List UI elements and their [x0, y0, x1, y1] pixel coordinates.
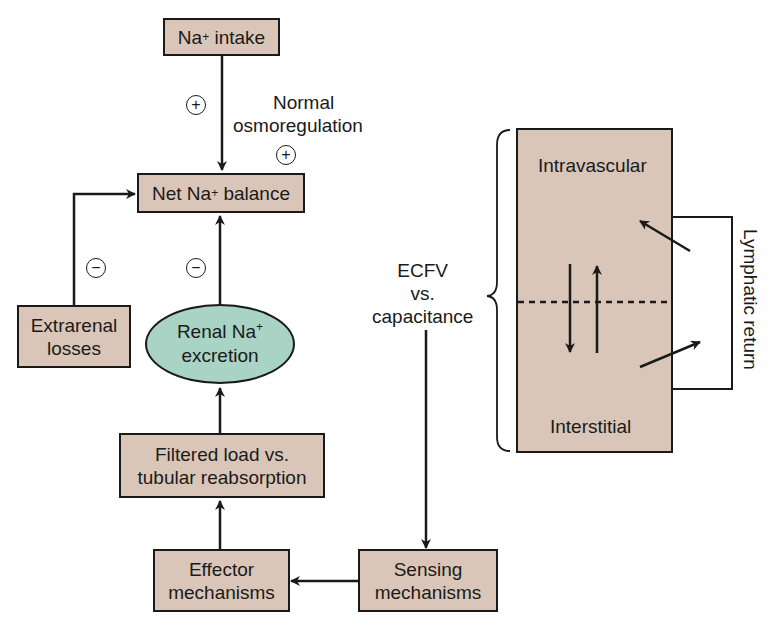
ecfv-capacitance-label: ECFV vs. capacitance — [372, 259, 473, 328]
diagram-canvas: Intravascular Interstitial Lymphatic ret… — [0, 0, 774, 626]
plus-sign-icon: + — [186, 95, 206, 115]
filtered-load-node: Filtered load vs. tubular reabsorption — [119, 433, 325, 498]
sensing-mechanisms-node: Sensing mechanisms — [358, 549, 498, 612]
lymphatic-return-label: Lymphatic return — [739, 229, 762, 370]
interstitial-label: Interstitial — [550, 415, 631, 438]
plus-sign-icon: + — [276, 145, 296, 165]
na-intake-node: Na+ intake — [163, 18, 280, 56]
renal-na-excretion-node: Renal Na+ excretion — [145, 304, 295, 384]
osmoregulation-label: Normal osmoregulation — [233, 91, 363, 137]
effector-mechanisms-node: Effector mechanisms — [153, 549, 290, 612]
extrarenal-losses-node: Extrarenal losses — [17, 305, 131, 368]
intravascular-label: Intravascular — [538, 154, 647, 177]
minus-sign-icon: − — [86, 258, 106, 278]
net-na-balance-node: Net Na+ balance — [137, 173, 305, 213]
minus-sign-icon: − — [186, 258, 206, 278]
